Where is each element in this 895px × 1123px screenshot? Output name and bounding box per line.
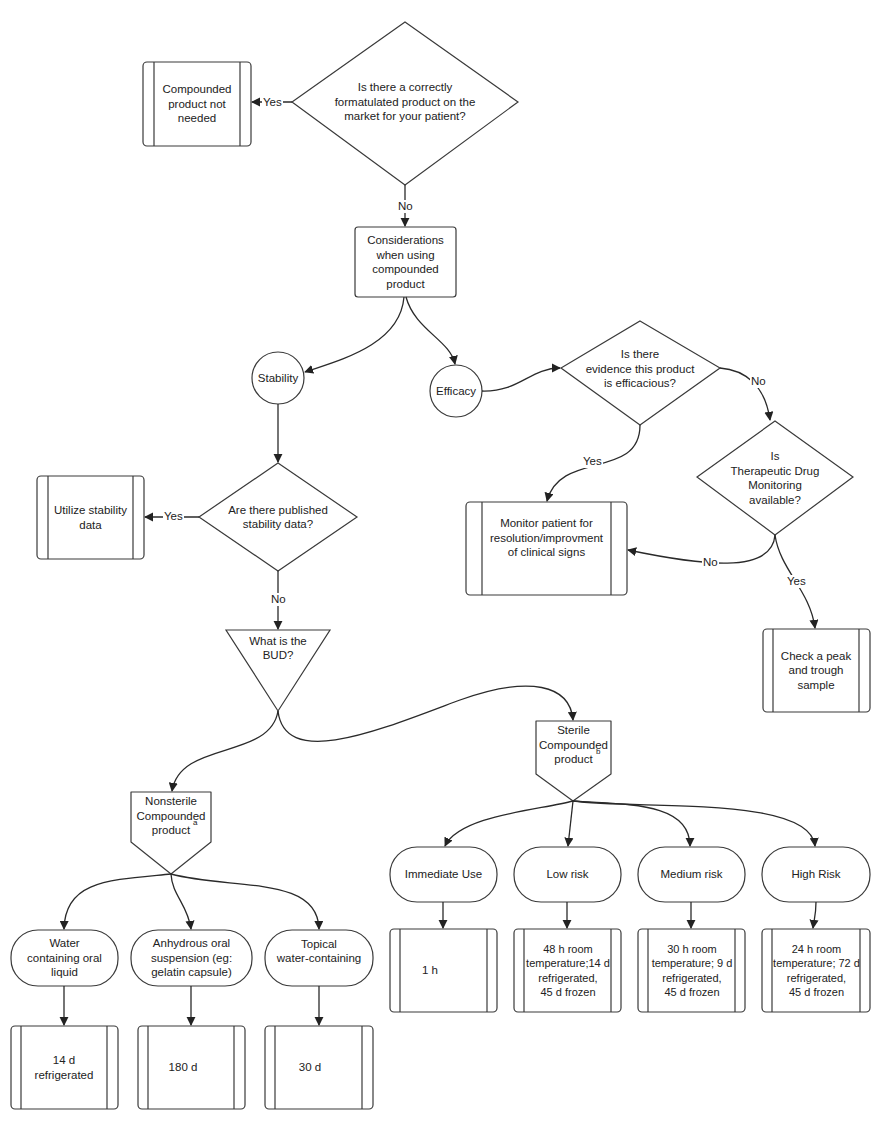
- high-risk-bud-text: 24 h room temperature; 72 d refrigerated…: [761, 929, 872, 1012]
- sterile-label: Sterile Compounded product: [539, 723, 608, 767]
- stability-text: Stability: [252, 368, 304, 388]
- medium-risk-bud-text: 30 h room temperature; 9 d refrigerated,…: [637, 929, 747, 1012]
- immediate-bud-text: 1 h: [400, 929, 460, 1012]
- low-risk-text: Low risk: [514, 847, 621, 902]
- efficacious-no-label: No: [750, 375, 767, 388]
- utilize-stability-text: Utilize stability data: [48, 476, 133, 559]
- low-risk-bud-text: 48 h room temperature;14 d refrigerated,…: [513, 929, 623, 1012]
- water-oral-text: Water containing oral liquid: [11, 930, 118, 986]
- high-risk-text: High Risk: [762, 847, 870, 902]
- medium-risk-text: Medium risk: [638, 847, 745, 902]
- considerations-text: Considerations when using compounded pro…: [355, 227, 456, 297]
- tdm-yes-label: Yes: [786, 575, 807, 588]
- efficacious-yes-label: Yes: [582, 455, 603, 468]
- nonsterile-text: Nonsterile Compounded producta: [131, 793, 211, 839]
- monitor-patient-text: Monitor patient for resolution/improvmen…: [482, 502, 611, 574]
- sterile-text: Sterile Compounded productb: [536, 722, 611, 768]
- not-needed-text: Compounded product not needed: [154, 62, 240, 146]
- market-no-label: No: [397, 200, 414, 213]
- efficacious-question-text: Is there evidence this product is effica…: [580, 346, 700, 392]
- tdm-question-text: Is Therapeutic Drug Monitoring available…: [720, 448, 830, 508]
- bud-question-text: What is the BUD?: [236, 632, 320, 664]
- topical-bud-text: 30 d: [275, 1026, 345, 1109]
- nonsterile-label: Nonsterile Compounded product: [136, 794, 205, 838]
- stability-no-label: No: [270, 593, 287, 606]
- topical-text: Topical water-containing: [265, 926, 373, 976]
- tdm-no-label: No: [702, 556, 719, 569]
- immediate-use-text: Immediate Use: [390, 847, 497, 902]
- market-question-text: Is there a correctly formatulated produc…: [322, 72, 488, 132]
- anhydrous-text: Anhydrous oral suspension (eg: gelatin c…: [131, 930, 252, 986]
- peak-trough-text: Check a peak and trough sample: [773, 629, 859, 712]
- stability-question-text: Are there published stability data?: [212, 500, 344, 534]
- stability-yes-label: Yes: [163, 510, 184, 523]
- water-oral-bud-text: 14 d refrigerated: [21, 1026, 107, 1109]
- anhydrous-bud-text: 180 d: [148, 1026, 218, 1109]
- market-yes-label: Yes: [262, 96, 283, 109]
- efficacy-text: Efficacy: [430, 381, 482, 401]
